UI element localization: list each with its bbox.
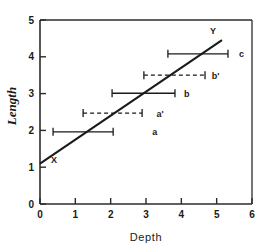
- axis-ticks: [40, 20, 252, 204]
- y-tick-label: 5: [28, 15, 34, 26]
- error-bar-b: b: [112, 89, 190, 99]
- x-tick-label: 0: [37, 209, 43, 220]
- series-label-a-prime: a': [157, 109, 164, 119]
- depth-length-scatter-plot: 0123450123456 aa'bb'c XY Length Depth: [0, 0, 278, 247]
- error-bar-a: a: [53, 127, 158, 137]
- x-tick-label: 1: [73, 209, 79, 220]
- y-tick-label: 0: [28, 199, 34, 210]
- axis-tick-labels: 0123450123456: [28, 15, 255, 220]
- y-tick-label: 2: [28, 125, 34, 136]
- x-axis-title: Depth: [130, 231, 162, 243]
- error-bar-series: aa'bb'c: [53, 49, 244, 137]
- chart-figure: 0123450123456 aa'bb'c XY Length Depth: [0, 0, 278, 247]
- y-tick-label: 1: [28, 162, 34, 173]
- x-tick-label: 5: [214, 209, 220, 220]
- series-label-b-prime: b': [212, 71, 220, 81]
- error-bar-b-prime: b': [144, 71, 220, 81]
- trend-line: [40, 40, 222, 163]
- y-tick-label: 3: [28, 88, 34, 99]
- trend-end-label: Y: [210, 26, 216, 36]
- trend-start-label: X: [51, 155, 57, 165]
- x-tick-label: 4: [179, 209, 185, 220]
- y-axis-title: Length: [4, 87, 19, 126]
- series-label-b: b: [184, 89, 190, 99]
- x-tick-label: 3: [143, 209, 149, 220]
- x-tick-label: 6: [249, 209, 255, 220]
- plot-frame: [40, 20, 252, 204]
- series-label-a: a: [152, 127, 158, 137]
- trend-line-group: XY: [40, 26, 222, 164]
- error-bar-a-prime: a': [83, 109, 164, 119]
- x-tick-label: 2: [108, 209, 114, 220]
- series-label-c: c: [239, 49, 244, 59]
- y-tick-label: 4: [28, 51, 34, 62]
